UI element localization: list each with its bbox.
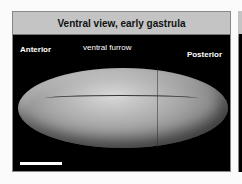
embryo-seam [157,68,158,148]
ventral-furrow-line [44,95,199,102]
embryo-image [18,68,228,148]
scale-bar [20,162,62,165]
adjacent-panel-header [238,11,242,34]
posterior-label: Posterior [187,50,222,59]
anterior-label: Anterior [20,45,51,54]
furrow-label: ventral furrow [83,43,131,52]
panel-title: Ventral view, early gastrula [13,12,230,35]
micrograph-panel: Ventral view, early gastrula Anterior Po… [12,11,231,172]
adjacent-panel-edge [238,11,242,172]
